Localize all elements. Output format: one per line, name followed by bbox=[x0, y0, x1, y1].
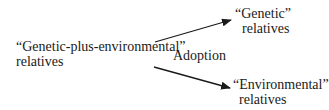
environmental-line2: relatives bbox=[233, 92, 329, 107]
genetic-node-label: “Genetic” relatives bbox=[235, 6, 291, 36]
source-line1: “Genetic-plus-environmental” bbox=[16, 39, 185, 54]
environmental-node-label: “Environmental” relatives bbox=[233, 77, 329, 107]
genetic-line1: “Genetic” bbox=[235, 6, 291, 21]
source-node-label: “Genetic-plus-environmental” relatives bbox=[16, 39, 185, 69]
genetic-line2: relatives bbox=[235, 21, 291, 36]
source-line2: relatives bbox=[16, 54, 185, 69]
arrow-to-environmental bbox=[154, 67, 230, 88]
edge-label-adoption: Adoption bbox=[173, 48, 226, 63]
environmental-line1: “Environmental” bbox=[233, 77, 329, 92]
